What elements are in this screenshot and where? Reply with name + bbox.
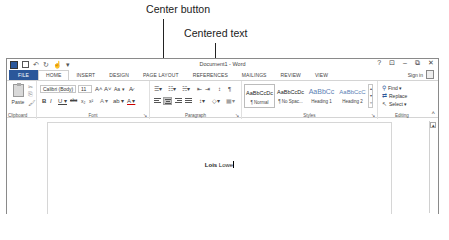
font-color-icon[interactable]: A ▾	[127, 97, 135, 105]
find-button[interactable]: ⚲ Find ▾	[382, 84, 402, 91]
replace-icon: ⇄	[382, 92, 387, 99]
styles-gallery-scroll[interactable]: ▴▾▿	[368, 84, 373, 108]
shrink-font-icon[interactable]: A˅	[104, 85, 112, 93]
styles-dialog-launcher-icon[interactable]: ↘	[371, 113, 375, 118]
group-label-editing: Editing	[378, 113, 426, 118]
italic-icon[interactable]: I	[50, 97, 52, 105]
show-formatting-marks-icon[interactable]: ¶	[228, 85, 231, 93]
font-name-select[interactable]: Calibri (Body)	[40, 85, 76, 93]
tab-view[interactable]: VIEW	[308, 70, 335, 80]
word-window: ↶ ↻ ☝ ▾ Document1 - Word ? ⊡ – ⧉ ✕ FILE …	[6, 58, 439, 214]
change-case-icon[interactable]: Aa ▾	[114, 85, 125, 93]
style-name: ¶ No Spac...	[275, 99, 306, 104]
tab-page-layout[interactable]: PAGE LAYOUT	[136, 70, 186, 80]
replace-label: Replace	[389, 93, 407, 99]
title-bar: ↶ ↻ ☝ ▾ Document1 - Word ? ⊡ – ⧉ ✕	[7, 59, 438, 70]
superscript-icon[interactable]: x²	[89, 97, 93, 105]
group-label-paragraph: Paragraph	[150, 113, 241, 118]
center-button[interactable]	[163, 97, 172, 105]
ribbon-tabs: FILE HOME INSERT DESIGN PAGE LAYOUT REFE…	[7, 70, 438, 80]
collapse-ribbon-icon[interactable]: ˄	[431, 110, 435, 116]
group-label-styles: Styles	[242, 113, 377, 118]
style-sample: AaBbCcDc	[275, 87, 306, 97]
binoculars-icon: ⚲	[382, 84, 386, 91]
group-font: Calibri (Body) 11 A˄ A˅ Aa ▾ A̷ B I U ▾ …	[37, 81, 150, 119]
subscript-icon[interactable]: x₂	[81, 97, 85, 105]
minimize-icon[interactable]: –	[403, 59, 407, 67]
bullets-icon[interactable]: ☰▾	[154, 85, 162, 93]
tab-insert[interactable]: INSERT	[69, 70, 102, 80]
style-heading-1[interactable]: AaBbCc Heading 1	[306, 84, 337, 108]
style-name: Heading 2	[337, 99, 368, 104]
group-label-clipboard: Clipboard	[7, 113, 36, 118]
style-name: ¶ Normal	[245, 100, 274, 105]
select-label: Select ▾	[389, 101, 407, 107]
document-paragraph[interactable]: Lois Lowe	[48, 161, 391, 168]
help-icon[interactable]: ?	[377, 59, 381, 67]
document-page[interactable]: Lois Lowe	[47, 122, 392, 214]
paste-button[interactable]: Paste	[10, 84, 26, 105]
style-heading-2[interactable]: AaBbCcC Heading 2	[337, 84, 368, 108]
multilevel-list-icon[interactable]: ☵▾	[182, 85, 190, 93]
decrease-indent-icon[interactable]: ⇤	[197, 85, 202, 93]
underline-icon[interactable]: U ▾	[58, 97, 67, 105]
style-sample: AaBbCc	[306, 87, 337, 97]
tab-design[interactable]: DESIGN	[102, 70, 136, 80]
tab-file[interactable]: FILE	[9, 70, 38, 80]
ribbon-home: Paste ✂ ⎘ 🖌 Clipboard Calibri (Body) 11 …	[7, 80, 438, 118]
sort-icon[interactable]: ↕	[218, 85, 221, 93]
justify-button[interactable]	[184, 97, 193, 105]
scroll-up-icon[interactable]: ▴	[430, 122, 436, 128]
strikethrough-icon[interactable]: abc	[70, 97, 77, 105]
tab-review[interactable]: REVIEW	[274, 70, 308, 80]
style-normal[interactable]: AaBbCcDc ¶ Normal	[244, 84, 275, 108]
paste-icon	[13, 84, 24, 97]
window-title: Document1 - Word	[7, 61, 438, 67]
select-button[interactable]: ↖ Select ▾	[382, 100, 407, 107]
style-sample: AaBbCcC	[337, 87, 368, 97]
tab-references[interactable]: REFERENCES	[186, 70, 235, 80]
borders-icon[interactable]: ▦▾	[226, 97, 235, 105]
group-paragraph: ☰▾ ☷▾ ☵▾ ⇤ ⇥ ↕ ¶ ↕▾ ◇▾ ▦▾ Paragraph ↘	[150, 81, 242, 119]
text-bold-first-name: Lois	[205, 162, 217, 168]
replace-button[interactable]: ⇄ Replace	[382, 92, 407, 99]
font-size-select[interactable]: 11	[78, 85, 92, 93]
increase-indent-icon[interactable]: ⇥	[205, 85, 210, 93]
numbering-icon[interactable]: ☷▾	[168, 85, 176, 93]
avatar[interactable]	[426, 70, 434, 79]
sign-in[interactable]: Sign in	[408, 70, 434, 79]
highlight-icon[interactable]: ab ▾	[113, 97, 124, 105]
line-spacing-icon[interactable]: ↕▾	[199, 97, 205, 105]
clear-formatting-icon[interactable]: A̷	[129, 85, 133, 93]
restore-icon[interactable]: ⧉	[415, 59, 420, 67]
grow-font-icon[interactable]: A˄	[95, 85, 103, 93]
shading-icon[interactable]: ◇▾	[212, 97, 220, 105]
tab-home[interactable]: HOME	[38, 70, 69, 80]
paragraph-dialog-launcher-icon[interactable]: ↘	[235, 113, 239, 118]
select-cursor-icon: ↖	[382, 100, 387, 107]
find-label: Find ▾	[388, 85, 402, 91]
group-editing: ⚲ Find ▾ ⇄ Replace ↖ Select ▾ Editing	[378, 81, 426, 119]
vertical-scrollbar[interactable]: ▴	[429, 121, 436, 213]
text-cursor	[233, 161, 234, 168]
style-no-spacing[interactable]: AaBbCcDc ¶ No Spac...	[275, 84, 306, 108]
bold-icon[interactable]: B	[42, 97, 46, 105]
copy-icon[interactable]: ⎘	[28, 91, 33, 98]
font-dialog-launcher-icon[interactable]: ↘	[143, 113, 147, 118]
text-effects-icon[interactable]: A ▾	[100, 97, 108, 105]
format-painter-icon[interactable]: 🖌	[28, 99, 36, 106]
group-clipboard: Paste ✂ ⎘ 🖌 Clipboard	[7, 81, 37, 119]
cut-icon[interactable]: ✂	[28, 83, 33, 90]
tab-mailings[interactable]: MAILINGS	[235, 70, 274, 80]
paste-label: Paste	[10, 99, 26, 105]
close-icon[interactable]: ✕	[428, 59, 434, 67]
styles-gallery: AaBbCcDc ¶ Normal AaBbCcDc ¶ No Spac... …	[244, 84, 373, 108]
window-controls: ? ⊡ – ⧉ ✕	[377, 59, 434, 67]
ribbon-display-icon[interactable]: ⊡	[389, 59, 395, 67]
callout-centered-text: Centered text	[184, 27, 248, 39]
group-styles: AaBbCcDc ¶ Normal AaBbCcDc ¶ No Spac... …	[242, 81, 378, 119]
align-right-button[interactable]	[174, 97, 183, 105]
sign-in-link[interactable]: Sign in	[408, 72, 423, 78]
align-left-button[interactable]	[153, 97, 162, 105]
style-sample: AaBbCcDc	[245, 88, 274, 98]
